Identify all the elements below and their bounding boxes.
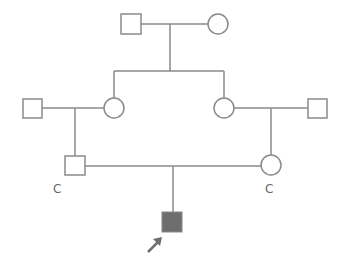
carrier-label-left: C — [53, 182, 61, 196]
individual-II-4-male — [308, 99, 327, 118]
individual-II-3-female — [214, 98, 234, 118]
individual-I-1-male — [121, 14, 141, 34]
individual-II-2-female — [104, 98, 124, 118]
carrier-label-right: C — [265, 182, 273, 196]
individual-II-1-male — [23, 99, 42, 118]
proband-arrow-icon — [148, 237, 162, 252]
individual-IV-1-affected-male — [162, 212, 182, 232]
individual-III-2-female — [261, 155, 281, 175]
pedigree-diagram — [0, 0, 343, 268]
individual-I-2-female — [208, 14, 228, 34]
individual-III-1-male — [65, 156, 85, 175]
